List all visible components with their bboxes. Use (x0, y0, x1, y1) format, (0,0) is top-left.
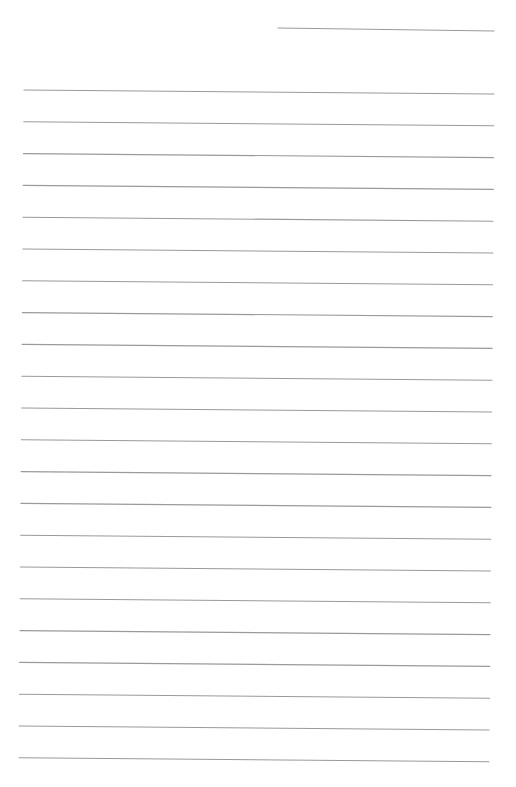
ruled-line (24, 122, 494, 126)
ruled-line (19, 758, 489, 762)
ruled-lines (0, 0, 516, 787)
ruled-line (20, 599, 490, 603)
ruled-line (24, 154, 494, 158)
ruled-line (23, 281, 493, 285)
ruled-line (20, 567, 490, 571)
ruled-line (19, 726, 489, 730)
ruled-line (22, 408, 492, 412)
ruled-line (22, 344, 492, 348)
ruled-line (20, 631, 490, 635)
ruled-line (23, 217, 493, 221)
ruled-line (21, 472, 491, 476)
ruled-line (22, 376, 492, 380)
ruled-line (21, 535, 491, 539)
lined-paper-page (0, 0, 516, 787)
ruled-line (23, 185, 493, 189)
ruled-line (23, 249, 493, 253)
ruled-line (20, 662, 490, 666)
ruled-line (21, 503, 491, 507)
ruled-line (24, 90, 494, 94)
ruled-line (22, 313, 492, 317)
header-line (278, 28, 494, 31)
ruled-line (20, 694, 490, 698)
ruled-line (21, 440, 491, 444)
